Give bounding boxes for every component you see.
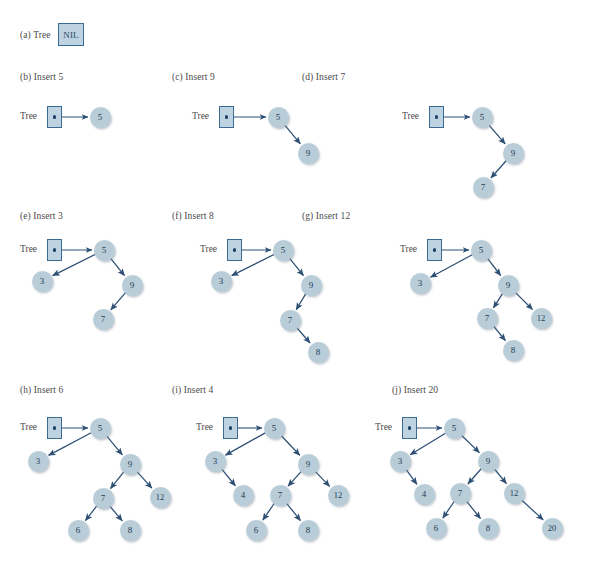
root-pointer-box-h <box>47 417 62 439</box>
tree-node-g-5: 5 <box>471 240 492 261</box>
root-pointer-dot <box>229 426 232 429</box>
edge-e-5-to-9 <box>110 258 124 276</box>
edge-i-3-to-4 <box>221 469 235 486</box>
tree-node-f-3: 3 <box>211 271 232 292</box>
tree-node-b-5: 5 <box>90 107 111 128</box>
panel-label-e: (e) Insert 3 <box>20 211 63 221</box>
panel-label-g: (g) Insert 12 <box>302 211 350 221</box>
edge-h-9-to-7 <box>110 472 123 489</box>
edge-j-9-to-12 <box>494 469 506 484</box>
tree-pointer-label-h: Tree <box>20 422 37 432</box>
edge-g-9-to-7 <box>493 293 502 307</box>
tree-node-g-9: 9 <box>498 275 519 296</box>
panel-label-j: (j) Insert 20 <box>392 385 438 395</box>
panel-label-i: (i) Insert 4 <box>172 385 213 395</box>
nil-box: NIL <box>58 23 84 46</box>
root-pointer-box-f <box>227 239 242 261</box>
root-pointer-box-c <box>219 106 234 128</box>
tree-node-j-3: 3 <box>390 451 411 472</box>
tree-node-c-9: 9 <box>298 143 319 164</box>
tree-node-h-5: 5 <box>90 418 111 439</box>
tree-node-f-9: 9 <box>301 275 322 296</box>
tree-node-j-5: 5 <box>444 418 465 439</box>
panel-label-h: (h) Insert 6 <box>20 385 63 395</box>
tree-pointer-label-b: Tree <box>20 111 37 121</box>
tree-node-j-12: 12 <box>504 483 525 504</box>
edge-d-9-to-7 <box>491 161 506 179</box>
tree-node-i-12: 12 <box>328 485 349 506</box>
edge-h-7-to-6 <box>85 506 96 521</box>
root-pointer-dot <box>53 115 56 118</box>
edge-i-9-to-12 <box>315 471 330 486</box>
tree-node-g-3: 3 <box>410 273 431 294</box>
root-pointer-dot <box>408 426 411 429</box>
root-pointer-dot <box>225 115 228 118</box>
root-pointer-box-g <box>427 239 442 261</box>
tree-node-j-8: 8 <box>478 518 499 539</box>
edge-g-9-to-12 <box>515 292 532 309</box>
tree-pointer-label-d: Tree <box>402 111 419 121</box>
edge-j-12-to-20 <box>521 500 543 520</box>
root-pointer-box-i <box>223 417 238 439</box>
root-pointer-box-j <box>402 417 417 439</box>
root-pointer-dot <box>435 115 438 118</box>
panel-label-a: (a) Tree <box>20 30 51 40</box>
tree-node-h-6: 6 <box>68 520 89 541</box>
tree-node-g-8: 8 <box>503 340 524 361</box>
tree-node-j-4: 4 <box>414 484 435 505</box>
tree-node-g-12: 12 <box>531 308 552 329</box>
edge-j-9-to-7 <box>468 469 482 484</box>
tree-node-e-3: 3 <box>32 271 53 292</box>
tree-pointer-label-i: Tree <box>196 422 213 432</box>
edge-i-5-to-9 <box>281 435 300 455</box>
tree-node-i-4: 4 <box>233 485 254 506</box>
edge-h-5-to-9 <box>106 436 122 455</box>
tree-node-h-3: 3 <box>28 451 49 472</box>
tree-node-j-20: 20 <box>542 518 563 539</box>
edge-f-9-to-7 <box>296 294 306 310</box>
root-pointer-dot <box>53 426 56 429</box>
tree-node-d-5: 5 <box>472 107 493 128</box>
edge-j-5-to-9 <box>461 435 479 453</box>
edge-e-9-to-7 <box>111 293 126 310</box>
edge-f-5-to-9 <box>289 258 303 276</box>
edge-d-5-to-9 <box>489 125 506 144</box>
edge-g-7-to-8 <box>493 326 505 341</box>
tree-node-i-8: 8 <box>298 520 319 541</box>
root-pointer-box-e <box>47 239 62 261</box>
root-pointer-box-b <box>47 106 62 128</box>
tree-node-e-7: 7 <box>93 309 114 330</box>
tree-pointer-label-j: Tree <box>375 422 392 432</box>
edge-j-7-to-6 <box>443 501 455 518</box>
tree-node-g-7: 7 <box>477 308 498 329</box>
root-pointer-dot <box>433 248 436 251</box>
edge-i-9-to-7 <box>288 471 301 486</box>
tree-node-e-5: 5 <box>94 240 115 261</box>
tree-node-h-7: 7 <box>93 488 114 509</box>
tree-node-f-5: 5 <box>273 240 294 261</box>
tree-pointer-label-f: Tree <box>200 244 217 254</box>
tree-pointer-label-c: Tree <box>192 111 209 121</box>
edge-f-7-to-8 <box>297 328 311 343</box>
tree-node-h-8: 8 <box>120 520 141 541</box>
tree-node-i-6: 6 <box>246 520 267 541</box>
root-pointer-dot <box>53 248 56 251</box>
tree-node-j-9: 9 <box>478 451 499 472</box>
bst-insertion-figure: (a) Tree(b) Insert 5(c) Insert 9(d) Inse… <box>0 0 602 561</box>
edge-i-7-to-6 <box>263 503 275 520</box>
edge-g-5-to-9 <box>487 258 501 276</box>
tree-node-j-7: 7 <box>450 483 471 504</box>
root-pointer-box-d <box>429 106 444 128</box>
tree-node-c-5: 5 <box>268 107 289 128</box>
tree-node-i-5: 5 <box>264 418 285 439</box>
edge-h-9-to-12 <box>137 471 152 488</box>
edge-j-3-to-4 <box>406 469 417 484</box>
tree-node-e-9: 9 <box>122 275 143 296</box>
panel-label-d: (d) Insert 7 <box>302 72 345 82</box>
tree-node-d-7: 7 <box>473 177 494 198</box>
tree-node-i-3: 3 <box>205 451 226 472</box>
root-pointer-dot <box>233 248 236 251</box>
tree-pointer-label-e: Tree <box>20 244 37 254</box>
tree-node-i-7: 7 <box>270 485 291 506</box>
tree-node-i-9: 9 <box>298 454 319 475</box>
